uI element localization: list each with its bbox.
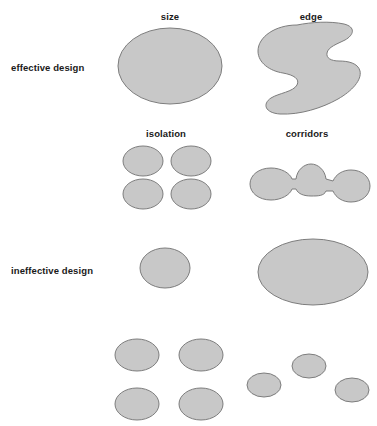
panel-size-effective	[118, 28, 222, 104]
habitat-patch	[123, 179, 163, 209]
habitat-patch	[171, 146, 211, 176]
habitat-patch	[179, 339, 223, 371]
panel-size-ineffective	[140, 248, 190, 288]
panel-edge-effective	[258, 22, 360, 114]
habitat-patch	[115, 339, 159, 371]
panel-corridors-effective	[250, 164, 370, 202]
habitat-patch	[335, 378, 369, 402]
panel-isolation-ineffective	[115, 339, 223, 420]
habitat-patch-diagram	[0, 0, 377, 426]
habitat-patch	[247, 373, 281, 397]
habitat-patch	[179, 388, 223, 420]
habitat-patch	[171, 179, 211, 209]
habitat-patch-smooth-edge	[258, 239, 368, 305]
habitat-patch-convoluted-edge	[258, 22, 360, 114]
habitat-patch-large	[118, 28, 222, 104]
habitat-patch	[115, 388, 159, 420]
habitat-patch	[123, 146, 163, 176]
conservation-design-figure: size edge isolation corridors effective …	[0, 0, 377, 426]
panel-edge-ineffective	[258, 239, 368, 305]
panel-corridors-ineffective	[247, 354, 369, 402]
habitat-patch	[292, 354, 326, 378]
habitat-patches-with-corridors	[250, 164, 370, 202]
panel-isolation-effective	[123, 146, 211, 209]
habitat-patch-small	[140, 248, 190, 288]
